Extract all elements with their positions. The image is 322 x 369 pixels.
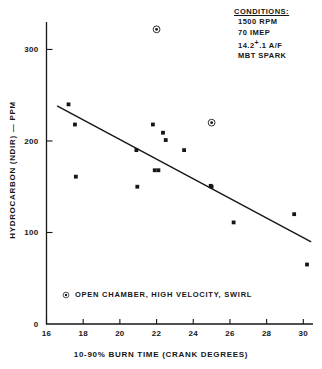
af-value: 14.2 (238, 40, 255, 49)
x-tick-label: 26 (225, 329, 235, 338)
legend-label: OPEN CHAMBER, HIGH VELOCITY, SWIRL (75, 290, 252, 299)
y-tick-label: 100 (0, 228, 39, 237)
chart-figure: 1618202224262830 0100200300 10-90% BURN … (0, 0, 322, 369)
axes (46, 22, 313, 325)
data-points (67, 26, 309, 266)
conditions-title: CONDITIONS: (234, 7, 289, 17)
x-tick-label: 28 (262, 329, 272, 338)
x-tick-label: 20 (115, 329, 125, 338)
legend: OPEN CHAMBER, HIGH VELOCITY, SWIRL (62, 290, 252, 299)
x-tick-label: 24 (189, 329, 199, 338)
y-tick-label: 0 (0, 320, 39, 329)
y-tick-label: 300 (0, 45, 39, 54)
x-tick-label: 30 (299, 329, 309, 338)
conditions-item-af: 14.2+.1 A/F (238, 38, 289, 51)
x-tick-label: 16 (42, 329, 52, 338)
y-tick-label: 200 (0, 136, 39, 145)
x-axis-title: 10-90% BURN TIME (CRANK DEGREES) (74, 350, 248, 359)
af-tolerance: .1 A/F (259, 40, 282, 49)
y-axis-ticks (47, 49, 53, 232)
conditions-list: 1500 RPM 70 IMEP 14.2+.1 A/F MBT SPARK (238, 17, 289, 61)
y-axis-title: HYDROCARBON (NDIR) — PPM (8, 101, 17, 239)
conditions-item-spark: MBT SPARK (238, 51, 289, 61)
x-axis-ticks (47, 319, 304, 324)
x-tick-label: 18 (78, 329, 88, 338)
circled-dot-icon (62, 291, 70, 299)
trend-line (58, 106, 311, 241)
x-tick-label: 22 (152, 329, 162, 338)
conditions-item-imep: 70 IMEP (238, 28, 289, 38)
conditions-item-rpm: 1500 RPM (238, 17, 289, 27)
conditions-annotation: CONDITIONS: 1500 RPM 70 IMEP 14.2+.1 A/F… (238, 7, 289, 61)
